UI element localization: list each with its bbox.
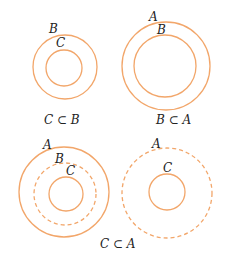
label-b: B: [48, 22, 58, 36]
circle-b-dashed: [34, 163, 96, 225]
label-a: A: [148, 10, 158, 24]
circle-c: [49, 177, 83, 211]
panel-a-b-c: A B C: [19, 138, 109, 237]
caption-c-subset-a: C ⊂ A: [100, 237, 136, 251]
circle-b: [134, 35, 196, 97]
caption-c-subset-b: C ⊂ B: [44, 113, 80, 127]
panel-b-subset-a: A B B ⊂ A: [122, 10, 210, 127]
subset-diagram: B C C ⊂ B A B B ⊂ A A B C A C C ⊂ A: [0, 0, 225, 260]
circle-c: [149, 174, 185, 210]
circle-c: [46, 50, 82, 86]
panel-c-subset-b: B C C ⊂ B: [33, 22, 97, 127]
label-c: C: [66, 164, 75, 178]
label-a: A: [42, 138, 52, 152]
panel-a-c: A C: [122, 137, 212, 238]
label-b: B: [54, 152, 64, 166]
label-c: C: [163, 161, 172, 175]
label-c: C: [56, 36, 65, 50]
label-b: B: [156, 23, 166, 37]
label-a: A: [151, 137, 161, 151]
caption-b-subset-a: B ⊂ A: [155, 113, 192, 127]
